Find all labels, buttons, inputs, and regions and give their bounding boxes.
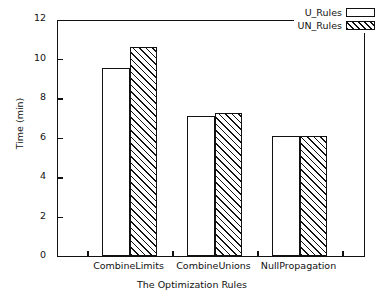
bar-u-rules-combinelimits bbox=[102, 68, 130, 256]
y-axis-tick-mark bbox=[57, 98, 63, 100]
bar-un-rules-combinelimits bbox=[130, 47, 158, 256]
y-axis-tick-label: 12 bbox=[34, 13, 46, 23]
legend: U_Rules UN_Rules bbox=[294, 5, 378, 33]
legend-label-u-rules: U_Rules bbox=[305, 7, 342, 18]
legend-swatch-u-rules bbox=[346, 8, 375, 17]
bar-un-rules-nullpropagation bbox=[300, 136, 328, 256]
x-axis-tick-label: CombineUnions bbox=[176, 260, 251, 271]
y-axis-tick-mark bbox=[57, 177, 63, 179]
legend-swatch-un-rules bbox=[346, 21, 375, 30]
y-axis-tick-label: 10 bbox=[34, 53, 46, 63]
y-axis-tick-label: 4 bbox=[40, 171, 46, 181]
bar-chart: 024681012 Time (min) CombineLimitsCombin… bbox=[0, 0, 384, 305]
y-axis-tick-mark bbox=[57, 59, 63, 61]
bar-u-rules-combineunions bbox=[187, 116, 215, 256]
x-axis-title: The Optimization Rules bbox=[0, 279, 384, 290]
y-axis-tick-label: 8 bbox=[40, 92, 46, 102]
y-axis-tick-label: 6 bbox=[40, 132, 46, 142]
y-axis-tick-mark bbox=[57, 138, 63, 140]
y-axis-tick-label: 0 bbox=[40, 250, 46, 260]
x-axis-tick-label: CombineLimits bbox=[93, 260, 164, 271]
plot-area bbox=[57, 20, 365, 257]
y-axis-tick-mark bbox=[57, 217, 63, 219]
x-axis-tick-mark bbox=[172, 251, 174, 257]
bar-u-rules-nullpropagation bbox=[272, 136, 300, 256]
bar-un-rules-combineunions bbox=[215, 113, 243, 256]
legend-item-un-rules: UN_Rules bbox=[298, 20, 375, 31]
legend-item-u-rules: U_Rules bbox=[298, 7, 375, 18]
y-axis-title: Time (min) bbox=[14, 98, 25, 150]
legend-label-un-rules: UN_Rules bbox=[298, 20, 342, 31]
x-axis-tick-mark bbox=[257, 251, 259, 257]
bars-layer bbox=[58, 21, 364, 256]
x-axis-tick-mark bbox=[342, 251, 344, 257]
x-axis-tick-label: NullPropagation bbox=[261, 260, 336, 271]
x-axis-tick-mark bbox=[87, 251, 89, 257]
y-axis-tick-label: 2 bbox=[40, 211, 46, 221]
